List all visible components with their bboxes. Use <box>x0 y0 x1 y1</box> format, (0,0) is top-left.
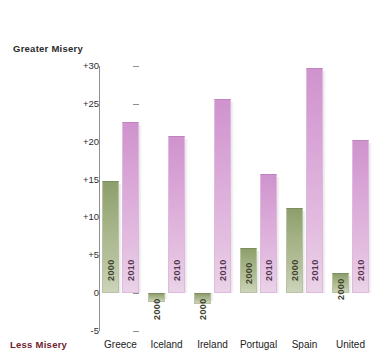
plot-area: 20002010Greece20002010Iceland20002010Ire… <box>99 0 385 354</box>
bar-group: 20002010 <box>286 0 323 354</box>
bar-portugal-2000: 2000 <box>240 248 257 293</box>
bar-group: 20002010 <box>240 0 277 354</box>
y-tick-label: +15 <box>53 174 99 185</box>
y-tick-label: 0 <box>53 287 99 298</box>
bar-united-2000: 2000 <box>332 273 349 293</box>
bar-portugal-2010: 2010 <box>260 174 277 294</box>
bar-series-label: 2010 <box>164 255 190 281</box>
y-tick-label: +30 <box>53 60 99 71</box>
y-axis-ticks: +30+25+20+15+10+50-5 <box>40 0 99 354</box>
bar-series-label: 2000 <box>190 294 216 320</box>
misery-index-chart: Greater Misery Less Misery +30+25+20+15+… <box>0 0 385 354</box>
bar-group: 20002010 <box>102 0 139 354</box>
bar-series-label: 2000 <box>144 294 170 320</box>
bar-ireland-2000: 2000 <box>194 293 211 304</box>
bar-series-label: 2010 <box>256 255 282 281</box>
bar-iceland-2000: 2000 <box>148 293 165 302</box>
y-tick-label: +10 <box>53 211 99 222</box>
y-tick-label: -5 <box>53 325 99 336</box>
bar-series-label: 2010 <box>210 255 236 281</box>
bar-greece-2000: 2000 <box>102 181 119 293</box>
bar-iceland-2010: 2010 <box>168 136 185 293</box>
bar-greece-2010: 2010 <box>122 122 139 293</box>
bar-group: 20002010 <box>332 0 369 354</box>
bar-series-label: 2010 <box>302 255 328 281</box>
bar-united-2010: 2010 <box>352 140 369 293</box>
bar-spain-2000: 2000 <box>286 208 303 294</box>
bar-group: 20002010 <box>148 0 185 354</box>
category-label-united: United <box>324 339 377 350</box>
y-tick-label: +20 <box>53 136 99 147</box>
bar-series-label: 2010 <box>118 255 144 281</box>
bar-group: 20002010 <box>194 0 231 354</box>
y-tick-label: +25 <box>53 98 99 109</box>
y-tick-label: +5 <box>53 249 99 260</box>
bar-spain-2010: 2010 <box>306 68 323 293</box>
bar-ireland-2010: 2010 <box>214 99 231 294</box>
bar-series-label: 2010 <box>348 255 374 281</box>
